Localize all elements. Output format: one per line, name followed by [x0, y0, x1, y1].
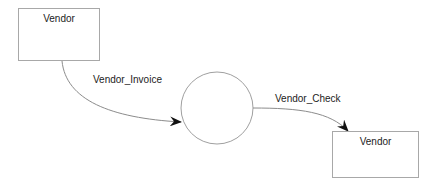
flow-label-vendor-check: Vendor_Check — [275, 93, 341, 104]
flow-label-vendor-invoice: Vendor_Invoice — [93, 74, 162, 85]
process-circle[interactable] — [181, 72, 253, 144]
vendor-source-entity[interactable]: Vendor — [18, 8, 100, 61]
flow-vendor-check-line[interactable] — [253, 108, 348, 131]
vendor-sink-entity[interactable]: Vendor — [332, 131, 419, 178]
entity-label: Vendor — [333, 136, 418, 147]
entity-label: Vendor — [19, 13, 99, 24]
flow-vendor-invoice-line[interactable] — [62, 61, 181, 122]
